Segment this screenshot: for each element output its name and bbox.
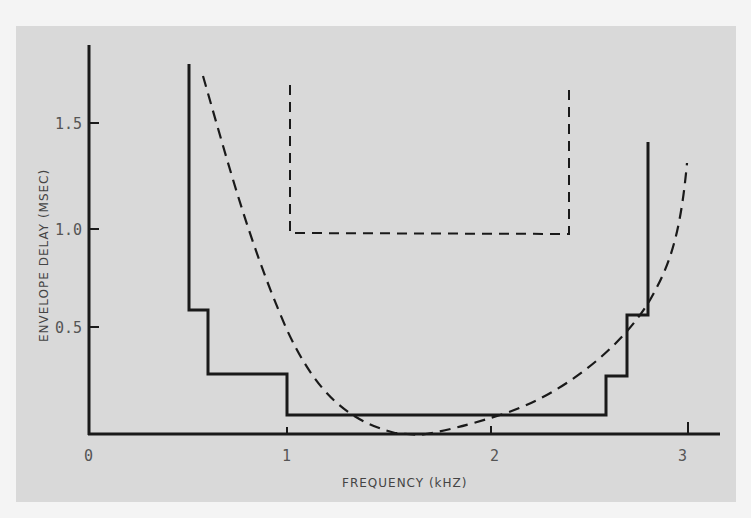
x-axis-title: FREQUENCY (kHZ) bbox=[342, 476, 467, 490]
x-tick-label-2: 2 bbox=[490, 447, 499, 465]
chart-svg: 1.5 1.0 0.5 0 1 2 3 FREQUENCY (kHZ) ENVE… bbox=[0, 0, 751, 518]
x-tick-label-1: 1 bbox=[282, 447, 291, 465]
series-dashed-box bbox=[290, 85, 569, 234]
series-dashed-curve bbox=[203, 76, 687, 435]
x-tick-label-0: 0 bbox=[84, 447, 93, 465]
y-tick-label-1.5: 1.5 bbox=[55, 115, 82, 133]
y-tick-label-1.0: 1.0 bbox=[55, 221, 82, 239]
y-tick-label-0.5: 0.5 bbox=[55, 319, 82, 337]
x-tick-label-3: 3 bbox=[678, 447, 687, 465]
series-solid-step bbox=[189, 64, 648, 415]
y-axis-title: ENVELOPE DELAY (MSEC) bbox=[37, 169, 51, 342]
